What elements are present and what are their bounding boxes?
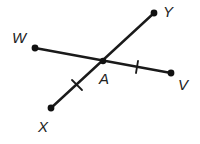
label-x: X [37, 118, 49, 135]
point-x [48, 105, 55, 112]
label-y: Y [163, 3, 174, 20]
label-w: W [12, 29, 28, 46]
point-w [32, 45, 39, 52]
point-y [151, 10, 158, 17]
point-v [168, 70, 175, 77]
point-a [100, 58, 106, 64]
label-a: A [98, 70, 109, 87]
geometry-diagram: W V X Y A [0, 0, 200, 144]
label-v: V [178, 76, 190, 93]
congruence-tick-av [136, 61, 138, 73]
